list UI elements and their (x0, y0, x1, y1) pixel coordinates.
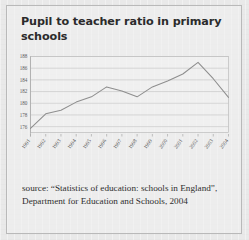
chart-svg: 188186184182180178176 199119921993199419… (8, 52, 234, 174)
y-tick-label: 186 (20, 65, 28, 71)
x-axis: 1991199219931994199519961997199819992000… (20, 134, 229, 150)
x-tick-label: 2002 (188, 137, 199, 150)
x-tick-label: 2003 (203, 137, 214, 150)
y-tick-label: 182 (20, 88, 28, 94)
y-tick-label: 176 (20, 124, 28, 130)
x-tick-label: 1994 (66, 137, 77, 150)
x-tick-label: 1993 (51, 137, 62, 150)
x-tick-label: 2000 (157, 137, 168, 150)
y-tick-label: 188 (20, 53, 28, 59)
line-chart: 188186184182180178176 199119921993199419… (8, 52, 234, 174)
x-tick-label: 1996 (96, 137, 107, 150)
x-tick-label: 1992 (35, 137, 46, 150)
scanned-page: Pupil to teacher ratio in primary school… (0, 0, 249, 240)
source-caption: source: “Statistics of education: school… (22, 182, 228, 207)
x-tick-label: 1999 (142, 137, 153, 150)
x-tick-label: 1995 (81, 137, 92, 150)
x-tick-label: 2004 (218, 137, 229, 150)
y-tick-label: 180 (20, 100, 28, 106)
x-tick-label: 2001 (173, 137, 184, 150)
x-tick-label: 1997 (112, 137, 123, 150)
page-title: Pupil to teacher ratio in primary school… (21, 15, 226, 44)
x-tick-label: 1991 (20, 137, 31, 150)
y-tick-label: 184 (20, 77, 28, 83)
x-tick-label: 1998 (127, 137, 138, 150)
y-tick-label: 178 (20, 112, 28, 118)
